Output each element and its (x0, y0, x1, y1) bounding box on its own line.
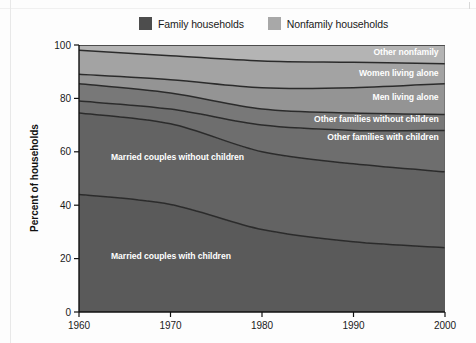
x-tick-label: 1970 (159, 320, 182, 331)
chart-page: Family households Nonfamily households 0… (0, 0, 476, 343)
band-label-other-nonfamily: Other nonfamily (373, 47, 438, 57)
x-tick-label: 1990 (342, 320, 365, 331)
x-tick-label: 1980 (251, 320, 274, 331)
x-tick-label: 2000 (434, 320, 457, 331)
area-bands (79, 45, 445, 312)
x-tick-label: 1960 (68, 320, 91, 331)
band-label-other-families-without-children: Other families without children (314, 114, 439, 124)
band-label-men-living-alone: Men living alone (373, 92, 439, 102)
y-tick-label: 0 (65, 307, 71, 318)
chart-plot-area: 020406080100 19601970198019902000 Marrie… (0, 0, 476, 343)
band-label-women-living-alone: Women living alone (359, 68, 439, 78)
band-label-married-couples-with-children: Married couples with children (111, 251, 231, 261)
y-tick-label: 20 (60, 253, 72, 264)
y-tick-label: 40 (60, 200, 72, 211)
band-label-married-couples-without-children: Married couples without children (111, 152, 244, 162)
y-tick-label: 60 (60, 146, 72, 157)
y-axis-title: Percent of households (29, 124, 40, 232)
y-axis-ticks: 020406080100 (54, 40, 79, 318)
y-tick-label: 80 (60, 93, 72, 104)
stacked-area-chart: 020406080100 19601970198019902000 Marrie… (0, 0, 476, 343)
y-tick-label: 100 (54, 40, 71, 51)
band-label-other-families-with-children: Other families with children (327, 132, 438, 142)
x-axis-ticks: 19601970198019902000 (68, 312, 457, 331)
